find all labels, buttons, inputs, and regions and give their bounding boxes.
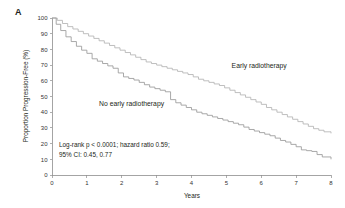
stats-annotation-line-1: Log-rank p < 0.0001; hazard ratio 0.59;: [59, 141, 170, 149]
x-tick-label: 2: [120, 180, 124, 186]
series-label-no-early-radiotherapy: No early radiotherapy: [99, 100, 165, 108]
x-tick-label: 8: [329, 180, 333, 186]
y-tick-label: 80: [41, 47, 48, 53]
y-tick-label: 40: [41, 109, 48, 115]
y-tick-label: 100: [37, 15, 48, 21]
x-tick-label: 6: [260, 180, 264, 186]
x-axis-ticks: 012345678: [50, 175, 333, 186]
x-axis-title: Years: [184, 192, 200, 199]
y-tick-label: 90: [41, 31, 48, 37]
x-tick-label: 1: [85, 180, 89, 186]
x-tick-label: 7: [294, 180, 298, 186]
y-tick-label: 0: [44, 172, 48, 178]
curve-early-radiotherapy: [52, 18, 331, 133]
figure-panel: A 0102030405060708090100 012345678 Propo…: [0, 0, 345, 208]
x-tick-label: 0: [50, 180, 54, 186]
x-tick-label: 5: [225, 180, 229, 186]
series-label-early-radiotherapy: Early radiotherapy: [232, 62, 288, 70]
y-axis-ticks: 0102030405060708090100: [37, 15, 52, 178]
y-tick-label: 10: [41, 157, 48, 163]
x-tick-label: 4: [190, 180, 194, 186]
x-tick-label: 3: [155, 180, 159, 186]
y-tick-label: 20: [41, 141, 48, 147]
stats-annotation-line-2: 95% CI: 0.45, 0.77: [59, 151, 112, 158]
y-axis-title: Proportion Progression-Free (%): [22, 50, 30, 142]
y-tick-label: 70: [41, 62, 48, 68]
y-tick-label: 30: [41, 125, 48, 131]
kaplan-meier-chart: 0102030405060708090100 012345678 Proport…: [0, 0, 345, 208]
curve-no-early-radiotherapy: [52, 18, 331, 159]
y-tick-label: 50: [41, 94, 48, 100]
y-tick-label: 60: [41, 78, 48, 84]
